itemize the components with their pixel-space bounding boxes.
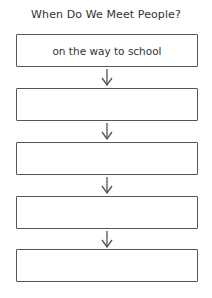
arrow-down-icon [100,122,114,140]
flow-box-4[interactable] [16,196,198,229]
diagram-title: When Do We Meet People? [0,8,212,21]
arrow-down-icon [100,176,114,194]
arrow-down-icon [100,230,114,248]
flow-box-2[interactable] [16,88,198,121]
flow-box-3[interactable] [16,142,198,175]
flow-box-5[interactable] [16,249,198,282]
arrow-down-icon [100,68,114,86]
flow-box-1[interactable]: on the way to school [16,34,198,67]
